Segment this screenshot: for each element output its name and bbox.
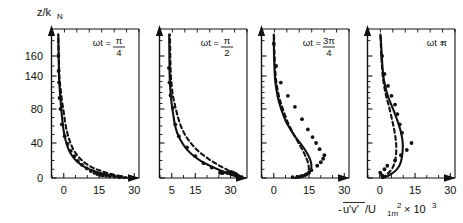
data-point (185, 145, 189, 149)
x-axis-title-minus: - (338, 203, 342, 215)
data-point (117, 175, 121, 179)
data-point (293, 105, 297, 109)
data-point (57, 69, 61, 73)
panel-phase-label-prefix: ωt = (93, 37, 112, 48)
data-point (168, 81, 172, 85)
figure-container: 0153004080140160ωt =π451530ωt =π201530ωt… (0, 0, 463, 223)
data-point (318, 147, 322, 151)
data-point (295, 175, 299, 179)
data-point (309, 168, 313, 172)
data-point (279, 81, 283, 85)
data-point (60, 122, 64, 126)
y-tick-label: 160 (25, 50, 43, 62)
data-point (306, 127, 310, 131)
data-point (76, 159, 80, 163)
data-point (291, 175, 295, 179)
panel-phase-label-prefix: ωt = (201, 37, 220, 48)
data-point (202, 161, 206, 165)
data-point (385, 164, 389, 168)
data-point (405, 148, 409, 152)
data-point (225, 171, 229, 175)
data-point (59, 107, 63, 111)
data-point (56, 54, 60, 58)
data-point (169, 93, 173, 97)
data-point (58, 96, 62, 100)
x-tick-label: 0 (271, 184, 277, 196)
panel-2: 51530ωt =π2 (156, 25, 248, 196)
y-axis-title: z/k N (37, 6, 63, 21)
x-axis-title-uv: u'v' (343, 203, 359, 215)
data-point (300, 117, 304, 121)
panels-group: 0153004080140160ωt =π451530ωt =π201530ωt… (25, 25, 457, 196)
data-point (322, 153, 326, 157)
data-point (193, 154, 197, 158)
x-tick-label: 0 (377, 184, 383, 196)
x-tick-label: 15 (409, 184, 421, 196)
x-axis-title: - u'v' /U 1m 2 × 10 3 (338, 201, 437, 218)
data-point (63, 134, 67, 138)
panel-phase-denominator: 4 (326, 47, 331, 58)
x-tick-label: 30 (224, 184, 236, 196)
x-tick-label: 0 (61, 184, 67, 196)
data-point (89, 169, 93, 173)
x-tick-label: 30 (444, 184, 456, 196)
x-tick-label: 15 (93, 184, 105, 196)
data-point (69, 149, 73, 153)
data-point (229, 170, 233, 174)
data-point (311, 135, 315, 139)
x-tick-label: 30 (338, 184, 350, 196)
data-point (80, 163, 84, 167)
data-point (315, 164, 319, 168)
data-point (108, 174, 112, 178)
multi-panel-reynolds-stress-plot: 0153004080140160ωt =π451530ωt =π201530ωt… (0, 0, 463, 223)
data-point (177, 134, 181, 138)
panel-phase-denominator: 2 (224, 47, 229, 58)
data-point (383, 167, 387, 171)
data-point (210, 166, 214, 170)
data-point (380, 54, 384, 58)
x-axis-title-multiplier: × 10 (404, 203, 426, 215)
data-point (386, 84, 390, 88)
y-axis-arrowhead (258, 25, 265, 36)
x-tick-label: 5 (169, 184, 175, 196)
y-tick-label: 40 (31, 137, 43, 149)
data-point (321, 157, 325, 161)
data-point (72, 154, 76, 158)
data-point (314, 141, 318, 145)
data-point (286, 94, 290, 98)
y-tick-label: 140 (25, 70, 43, 82)
data-point (378, 171, 382, 175)
x-tick-label: 15 (189, 184, 201, 196)
data-point (173, 122, 177, 126)
x-axis-title-denominator: /U (365, 203, 376, 215)
panel-1: 0153004080140160ωt =π4 (25, 25, 141, 196)
data-point (104, 174, 108, 178)
x-axis-title-superscript: 2 (397, 201, 402, 210)
data-point (410, 141, 414, 145)
panel-3: 01530ωt =3π4 (258, 25, 351, 196)
data-point (393, 103, 397, 107)
panel-phase-numerator: 3π (323, 35, 335, 46)
data-point (85, 166, 89, 170)
data-point (319, 160, 323, 164)
data-point (398, 122, 402, 126)
x-tick-label: 30 (128, 184, 140, 196)
data-point (112, 175, 116, 179)
panel-phase-numerator: π (116, 35, 123, 46)
y-tick-label: 80 (31, 103, 43, 115)
data-point (92, 171, 96, 175)
data-point (400, 131, 404, 135)
panel-4: 01530ωt =π (364, 25, 457, 196)
data-point (395, 112, 399, 116)
dashed-model-curve (170, 35, 241, 178)
data-point (167, 66, 171, 70)
solid-model-curve (58, 35, 125, 178)
data-point (399, 153, 403, 157)
x-tick-label: 15 (303, 184, 315, 196)
data-point (171, 106, 175, 110)
panel-phase-denominator: 4 (116, 47, 121, 58)
panel-phase-numerator: π (224, 35, 231, 46)
data-point (57, 81, 61, 85)
x-axis-title-exponent: 3 (432, 201, 437, 210)
panel-phase-numerator: π (440, 37, 447, 48)
